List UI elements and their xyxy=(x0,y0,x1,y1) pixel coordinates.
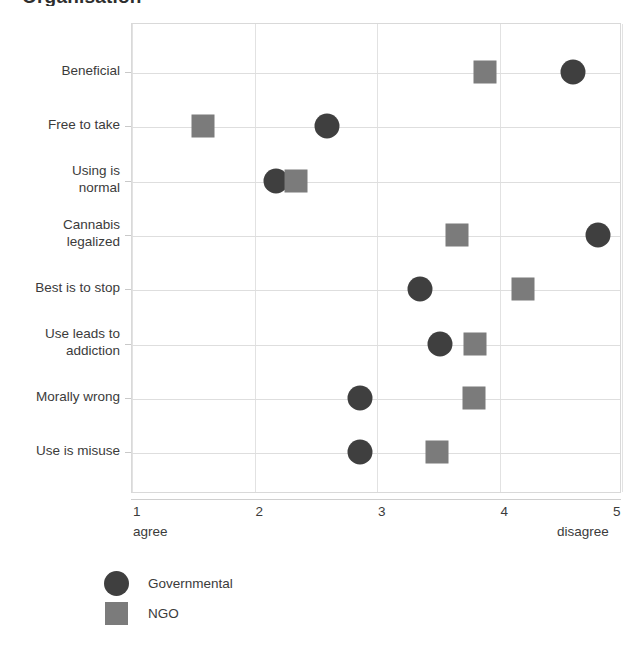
x-gridline xyxy=(132,24,133,492)
circle-marker-icon xyxy=(98,571,134,596)
y-axis-tick xyxy=(125,452,131,453)
x-tick-label: 1 xyxy=(133,504,141,519)
x-gridline xyxy=(622,24,623,492)
category-label: Use is misuse xyxy=(0,443,120,460)
y-axis-tick xyxy=(125,72,131,73)
y-axis-tick xyxy=(125,126,131,127)
data-point-circle xyxy=(585,222,610,247)
y-axis-tick xyxy=(125,344,131,345)
x-gridline xyxy=(500,24,501,492)
data-point-square xyxy=(464,332,487,355)
data-point-circle xyxy=(408,277,433,302)
x-gridline xyxy=(255,24,256,492)
legend-item-governmental[interactable]: Governmental xyxy=(98,568,233,598)
square-marker-icon xyxy=(98,602,134,625)
category-label: Best is to stop xyxy=(0,280,120,297)
x-tick-label: 3 xyxy=(378,504,386,519)
y-gridline xyxy=(132,399,620,400)
organisation-scatter-chart: Organisation BeneficialFree to takeUsing… xyxy=(0,0,643,649)
y-axis-tick xyxy=(125,235,131,236)
y-gridline xyxy=(132,182,620,183)
y-gridline xyxy=(132,73,620,74)
y-gridline xyxy=(132,290,620,291)
data-point-circle xyxy=(561,60,586,85)
chart-legend: Governmental NGO xyxy=(98,568,233,628)
data-point-square xyxy=(426,441,449,464)
data-point-square xyxy=(474,61,497,84)
y-gridline xyxy=(132,236,620,237)
y-gridline xyxy=(132,453,620,454)
legend-item-ngo[interactable]: NGO xyxy=(98,598,233,628)
category-label: Use leads to addiction xyxy=(0,326,120,359)
category-label: Using is normal xyxy=(0,163,120,196)
category-label: Beneficial xyxy=(0,63,120,80)
y-gridline xyxy=(132,345,620,346)
data-point-square xyxy=(512,278,535,301)
y-axis-tick xyxy=(125,181,131,182)
x-axis-anchor-high: disagree xyxy=(557,524,609,539)
x-gridline xyxy=(377,24,378,492)
data-point-square xyxy=(463,386,486,409)
y-axis-tick xyxy=(125,289,131,290)
x-tick-label: 5 xyxy=(613,504,621,519)
category-label: Free to take xyxy=(0,117,120,134)
chart-title: Organisation xyxy=(22,0,422,6)
legend-label-governmental: Governmental xyxy=(148,576,233,591)
x-axis-anchor-low: agree xyxy=(133,524,168,539)
data-point-circle xyxy=(315,114,340,139)
category-label: Cannabis legalized xyxy=(0,217,120,250)
x-tick-label: 4 xyxy=(501,504,509,519)
data-point-square xyxy=(285,169,308,192)
data-point-circle xyxy=(427,331,452,356)
data-point-square xyxy=(192,115,215,138)
legend-label-ngo: NGO xyxy=(148,606,179,621)
y-axis-tick xyxy=(125,398,131,399)
category-label: Morally wrong xyxy=(0,389,120,406)
x-tick-label: 2 xyxy=(256,504,264,519)
plot-area xyxy=(131,23,621,493)
x-axis-line xyxy=(131,499,621,500)
data-point-square xyxy=(445,223,468,246)
data-point-circle xyxy=(348,385,373,410)
data-point-circle xyxy=(348,440,373,465)
